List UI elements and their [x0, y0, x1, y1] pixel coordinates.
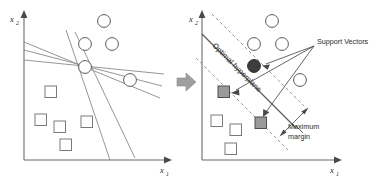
data-point-square	[81, 116, 93, 128]
right-x-axis-label-subscript: 1	[336, 171, 339, 176]
right-y-axis-label-text: x	[188, 14, 193, 24]
data-point-circle	[294, 74, 307, 87]
data-point-circle	[106, 38, 119, 51]
support-vector-square	[218, 86, 230, 98]
left-square-points	[35, 86, 93, 151]
maximum-margin-label-line2: margin	[288, 132, 310, 141]
data-point-square	[60, 139, 72, 151]
right-block-arrow-icon	[177, 73, 196, 91]
left-y-axis	[21, 10, 28, 160]
data-point-square	[35, 114, 47, 126]
data-point-square	[54, 121, 66, 133]
left-y-axis-label-subscript: 2	[16, 20, 19, 26]
right-x-axis	[202, 157, 342, 164]
svm-figure: x 2 x 1	[0, 0, 389, 176]
right-y-axis-label: x 2	[188, 14, 198, 26]
right-y-axis-label-subscript: 2	[195, 20, 198, 26]
left-y-axis-label: x 2	[9, 14, 19, 26]
data-point-square	[211, 115, 223, 127]
left-panel: x 2 x 1	[9, 10, 172, 176]
data-point-circle	[276, 38, 289, 51]
right-square-points	[211, 115, 242, 155]
maximum-margin-label: Maximum margin	[288, 122, 319, 141]
support-vector-square	[255, 117, 267, 129]
data-point-circle	[124, 74, 137, 87]
data-point-circle	[98, 15, 111, 28]
maximum-margin-label-line1: Maximum	[288, 122, 319, 131]
left-y-axis-label-text: x	[9, 14, 14, 24]
left-x-axis-label-subscript: 1	[166, 171, 169, 176]
support-vector-callout-arrowhead	[262, 65, 270, 70]
data-point-square	[230, 124, 242, 136]
separator-line	[24, 50, 162, 86]
support-vector-circle	[248, 60, 261, 73]
right-y-axis	[199, 10, 206, 160]
left-x-axis-label: x 1	[159, 165, 169, 176]
data-point-circle	[79, 61, 92, 74]
data-point-circle	[266, 15, 279, 28]
support-vector-callout-arrow	[266, 46, 314, 64]
right-circle-points	[248, 15, 307, 87]
data-point-square	[45, 86, 57, 98]
right-x-axis-label: x 1	[329, 165, 339, 176]
separator-line	[75, 32, 135, 158]
support-vector-callout-arrowhead	[231, 89, 239, 95]
right-x-axis-label-text: x	[329, 165, 334, 175]
data-point-circle	[79, 38, 92, 51]
support-vector-callout-arrowhead	[263, 109, 269, 117]
right-panel: x 2 x 1 Optimal hyperplane	[188, 10, 369, 176]
data-point-circle	[248, 38, 261, 51]
support-vector-squares	[218, 86, 267, 129]
left-x-axis	[24, 157, 172, 164]
support-vectors-label: Support Vectors	[317, 37, 369, 46]
separator-line	[24, 42, 160, 98]
data-point-square	[225, 143, 237, 155]
left-circle-points	[79, 15, 137, 87]
left-x-axis-label-text: x	[159, 165, 164, 175]
